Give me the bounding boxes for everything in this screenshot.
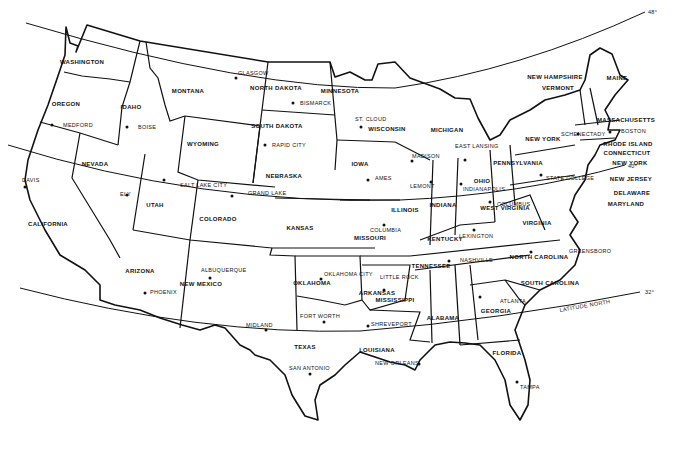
state-label: IDAHO [121,104,142,110]
state-label: MICHIGAN [431,127,464,133]
state-label: OKLAHOMA [293,280,331,286]
state-label: NORTH CAROLINA [510,254,569,260]
city-marker-icon [309,373,312,376]
state-label: VIRGINIA [522,220,551,226]
city-labels: GLASGOWBISMARCKMEDFORDBOISERAPID CITYST.… [22,70,646,390]
city-label: GREENSBORO [569,248,612,254]
city-label: RAPID CITY [272,142,306,148]
city-marker-icon [473,229,476,232]
city-label: NEW ORLEANS [375,360,419,366]
state-label: NEW YORK [525,136,561,142]
state-label: DELAWARE [614,190,650,196]
city-marker-icon [24,186,27,189]
city-label: ALBUQUERQUE [201,267,247,273]
city-label: OKLAHOMA CITY [324,271,373,277]
city-label: ATLANTA [500,298,526,304]
state-label: ILLINOIS [391,207,419,213]
state-label: MONTANA [172,88,205,94]
city-label: MEDFORD [63,122,93,128]
city-marker-icon [265,329,268,332]
state-label: KENTUCKY [427,236,463,242]
city-marker-icon [479,296,482,299]
state-label: NORTH DAKOTA [250,85,302,91]
state-label: NEW MEXICO [180,281,222,287]
state-label: WISCONSIN [368,126,405,132]
city-label: EAST LANSING [455,143,499,149]
city-label: COLUMBIA [370,227,401,233]
latitude-label: 48° [648,9,657,15]
city-label: INDIANAPOLIS [463,186,505,192]
state-label: COLORADO [199,216,236,222]
city-marker-icon [144,292,147,295]
city-marker-icon [163,179,166,182]
city-marker-icon [235,77,238,80]
city-label: SALT LAKE CITY [180,182,227,188]
city-label: MIDLAND [246,322,273,328]
state-label: MISSISSIPPI [376,297,415,303]
city-marker-icon [367,179,370,182]
city-label: LEMONT [410,183,435,189]
state-label: LOUISIANA [359,347,395,353]
state-label: NEW JERSEY [610,176,652,182]
city-marker-icon [448,260,451,263]
city-label: GLASGOW [238,70,269,76]
city-label: ELY [120,191,131,197]
state-label: PENNSYLVANIA [493,160,543,166]
state-label: NEBRASKA [266,173,303,179]
state-label: SOUTH DAKOTA [251,123,303,129]
state-label: NEW HAMPSHIRE [527,74,583,80]
state-label: UTAH [146,202,163,208]
city-marker-icon [516,381,519,384]
city-label: COLUMBUS [497,201,531,207]
city-marker-icon [323,321,326,324]
state-label: MINNESOTA [321,88,360,94]
city-marker-icon [489,201,492,204]
state-label: MARYLAND [608,201,645,207]
city-label: DAVIS [22,177,40,183]
city-label: LITTLE ROCK [380,274,419,280]
city-label: MADISON [412,153,440,159]
state-label: WASHINGTON [60,59,104,65]
state-label: SOUTH CAROLINA [521,280,580,286]
city-marker-icon [292,102,295,105]
city-marker-icon [383,289,386,292]
city-marker-icon [360,126,363,129]
city-label: LEXINGTON [459,233,493,239]
city-label: AMES [375,175,392,181]
state-label: CONNECTICUT [604,150,651,156]
state-label: OHIO [474,178,491,184]
city-marker-icon [464,159,467,162]
state-label: WYOMING [187,141,219,147]
city-label: SCHENECTADY [561,131,605,137]
state-label: OREGON [52,101,80,107]
state-label: MAINE [607,75,628,81]
city-label: PHOENIX [150,289,177,295]
city-label: BISMARCK [300,100,331,106]
city-label: SHREVEPORT [371,321,412,327]
city-label: SAN ANTONIO [289,365,330,371]
city-marker-icon [530,251,533,254]
city-label: ST. CLOUD [355,116,386,122]
city-marker-icon [609,131,612,134]
latitude-label: 32° [645,289,654,295]
city-label: BOISE [138,124,156,130]
city-label: NASHVILLE [460,257,493,263]
us-map: 48° 40° 32° LATITUDE NORTH WASHINGTONORE… [0,0,680,451]
state-label: GEORGIA [481,308,512,314]
city-marker-icon [411,160,414,163]
city-marker-icon [51,124,54,127]
city-label: GRAND LAKE [248,190,286,196]
city-marker-icon [367,325,370,328]
city-label: BOSTON [621,128,646,134]
state-label: ALABAMA [427,315,460,321]
state-label: NEW YORK [612,160,648,166]
state-label: KANSAS [286,225,313,231]
state-label: MISSOURI [354,235,386,241]
state-label: RHODE ISLAND [603,141,653,147]
city-label: FORT WORTH [300,313,340,319]
state-label: TEXAS [294,344,316,350]
state-label: FLORIDA [493,350,522,356]
state-label: ARIZONA [125,268,155,274]
state-label: VERMONT [542,85,574,91]
city-marker-icon [320,278,323,281]
